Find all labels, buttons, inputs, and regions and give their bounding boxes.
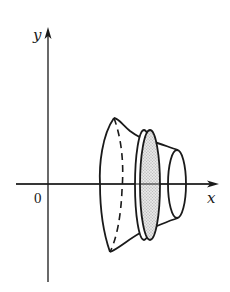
disk-front-face — [140, 130, 160, 240]
disk-slice — [135, 130, 160, 240]
hidden-edge-dashed — [110, 118, 123, 252]
solid-of-revolution-diagram: y 0 x — [0, 0, 230, 292]
origin-label: 0 — [34, 190, 42, 206]
x-axis-label: x — [207, 189, 216, 207]
y-axis — [45, 27, 52, 282]
left-boundary-curve — [100, 118, 114, 252]
y-axis-label: y — [32, 26, 42, 44]
